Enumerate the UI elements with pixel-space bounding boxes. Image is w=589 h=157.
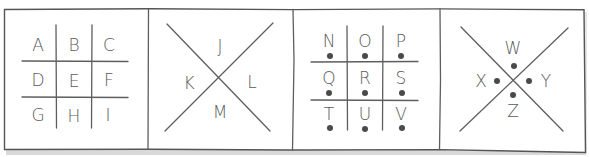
grid-line-h1 [311, 62, 418, 63]
letter-a: A [32, 35, 44, 55]
letter-r: R [359, 68, 371, 88]
letter-q: Q [322, 68, 335, 88]
letter-k: K [183, 73, 194, 93]
letter-t: T [324, 104, 335, 124]
dot-q [326, 90, 332, 96]
letter-w: W [505, 38, 522, 58]
letter-h: H [68, 106, 81, 126]
letter-j: J [217, 36, 222, 56]
grid-line-v2 [92, 25, 93, 128]
letter-b: B [68, 35, 79, 55]
letter-m: M [213, 102, 228, 122]
letter-n: N [323, 31, 336, 51]
letter-i: I [105, 105, 110, 125]
dot-r [362, 90, 368, 96]
dot-u [362, 126, 368, 132]
letter-e: E [69, 71, 80, 91]
letter-c: C [103, 35, 115, 55]
letter-x: X [475, 71, 487, 91]
letter-d: D [31, 70, 44, 90]
panel-grid-dotted: N O P Q R S T U V [311, 26, 418, 132]
letter-p: P [396, 31, 406, 51]
dot-y [526, 78, 532, 84]
letter-z: Z [507, 101, 519, 121]
grid-line-h2 [311, 100, 418, 101]
dot-z [510, 92, 516, 98]
dot-s [399, 90, 405, 96]
dot-p [398, 53, 404, 59]
panel-divider-1 [148, 9, 149, 149]
dot-n [327, 53, 333, 59]
letter-s: S [396, 68, 407, 88]
letter-f: F [104, 70, 114, 90]
grid-line-v2 [383, 26, 384, 130]
letter-v: V [395, 104, 407, 124]
letter-y: Y [541, 71, 551, 91]
dot-w [511, 63, 517, 69]
letter-l: L [247, 72, 256, 92]
letter-u: U [359, 104, 371, 124]
grid-line-h1 [22, 61, 128, 62]
grid-line-v1 [347, 26, 348, 130]
grid-line-v1 [56, 25, 57, 128]
letter-o: O [358, 31, 371, 51]
dot-t [327, 125, 333, 131]
dot-o [362, 53, 368, 59]
dot-x [494, 78, 500, 84]
pigpen-cipher-diagram: A B C D E F G H I J K L M N O P Q R S T … [0, 0, 589, 157]
letter-g: G [31, 105, 44, 125]
grid-line-h2 [22, 97, 128, 98]
dot-v [399, 125, 405, 131]
